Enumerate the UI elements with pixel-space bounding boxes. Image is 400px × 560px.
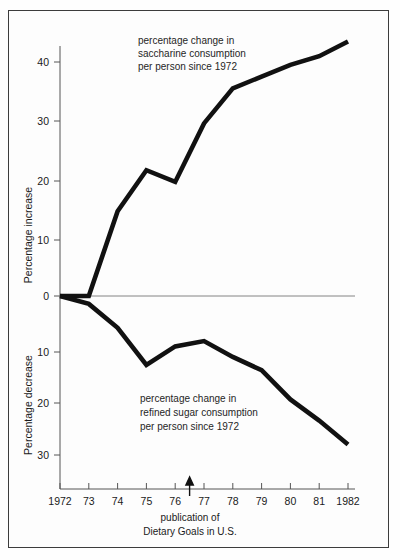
y-axis-title-upper: Percentage increase — [22, 187, 34, 283]
saccharine-annotation-line3: per person since 1972 — [138, 61, 237, 72]
saccharine-annotation-line1: percentage change in — [138, 35, 234, 46]
chart-figure: 40 30 20 10 0 10 20 30 1972 73 74 75 76 … — [0, 0, 400, 560]
x-label-73: 73 — [83, 495, 95, 507]
x-label-74: 74 — [112, 495, 124, 507]
saccharine-annotation-line2: saccharine consumption — [138, 48, 246, 59]
y-label-upper-0: 0 — [43, 290, 49, 302]
x-label-81: 81 — [313, 495, 325, 507]
x-label-1982: 1982 — [336, 495, 360, 507]
y-label-upper-30: 30 — [37, 115, 49, 127]
refined-sugar-annotation-line1: percentage change in — [140, 393, 236, 404]
x-label-77: 77 — [198, 495, 210, 507]
x-label-75: 75 — [141, 495, 153, 507]
refined-sugar-annotation-line3: per person since 1972 — [140, 421, 239, 432]
chart-plot-area: 40 30 20 10 0 10 20 30 1972 73 74 75 76 … — [0, 0, 400, 560]
y-label-upper-20: 20 — [37, 175, 49, 187]
y-label-lower-20: 20 — [37, 397, 49, 409]
x-label-79: 79 — [256, 495, 268, 507]
publication-arrow-icon — [186, 477, 193, 496]
refined-sugar-annotation-line2: refined sugar consumption — [140, 407, 258, 418]
y-axis-title-lower: Percentage decrease — [22, 355, 34, 455]
y-label-upper-40: 40 — [37, 56, 49, 68]
publication-caption-line1: publication of — [161, 512, 220, 523]
y-label-lower-10: 10 — [37, 346, 49, 358]
x-label-78: 78 — [227, 495, 239, 507]
x-label-80: 80 — [285, 495, 297, 507]
x-label-76: 76 — [169, 495, 181, 507]
y-label-upper-10: 10 — [37, 234, 49, 246]
series-line-saccharine — [60, 42, 348, 297]
y-label-lower-30: 30 — [37, 449, 49, 461]
publication-caption-line2: Dietary Goals in U.S. — [143, 526, 236, 537]
x-label-1972: 1972 — [48, 495, 72, 507]
